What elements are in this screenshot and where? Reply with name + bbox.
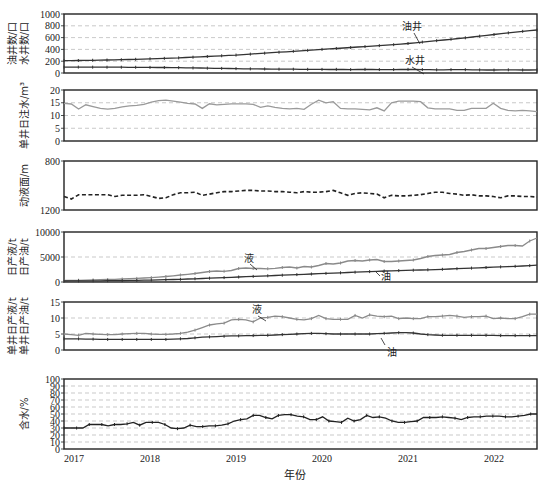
y-axis-label: 动液面/m xyxy=(18,164,30,207)
panel-2: 05101520单井日注水/m³ xyxy=(18,82,537,149)
panel-3: 8001200动液面/m xyxy=(18,156,537,216)
series-annotation: 水井 xyxy=(405,54,425,66)
x-tick-label: 2021 xyxy=(398,453,418,464)
y-tick-label: 400 xyxy=(45,44,60,55)
y-axis-label: 单井日产液/t xyxy=(6,297,18,354)
y-axis-label: 日产油/t xyxy=(18,238,30,275)
series-annotation: 油井 xyxy=(402,20,422,32)
series-annotation: 油 xyxy=(387,346,397,358)
y-tick-label: 0 xyxy=(55,345,60,356)
y-axis-label: 水井数/口 xyxy=(18,22,30,65)
y-tick-label: 10000 xyxy=(35,227,60,238)
y-tick-label: 5 xyxy=(55,329,60,340)
plot-frame xyxy=(64,14,537,73)
y-tick-label: 1000 xyxy=(40,9,60,20)
series-line xyxy=(64,30,537,61)
y-tick-label: 0 xyxy=(55,277,60,288)
series-line xyxy=(64,100,537,112)
x-tick-label: 2022 xyxy=(484,453,504,464)
y-axis-label: 单井日注水/m³ xyxy=(18,82,30,149)
panel-1: 02004006008001000油井数/口水井数/口油井水井 xyxy=(6,9,537,79)
y-tick-label: 20 xyxy=(50,85,60,96)
series-line xyxy=(64,190,537,199)
y-axis-label: 单井日产油/t xyxy=(18,297,30,354)
x-tick-label: 2018 xyxy=(140,453,160,464)
panel-5: 051015单井日产液/t单井日产油/t液油 xyxy=(6,297,537,359)
y-tick-label: 0 xyxy=(55,136,60,147)
x-tick-label: 2019 xyxy=(226,453,246,464)
y-tick-label: 800 xyxy=(45,156,60,167)
series-annotation: 液 xyxy=(252,303,262,315)
y-tick-label: 5000 xyxy=(40,252,60,263)
y-axis-label: 日产液/t xyxy=(6,238,18,275)
y-tick-label: 0 xyxy=(55,68,60,79)
series-annotation: 液 xyxy=(244,252,254,264)
y-tick-label: 15 xyxy=(50,97,60,108)
x-tick-label: 2017 xyxy=(64,453,84,464)
panel-6: 0102030405060708090100含水/% xyxy=(18,374,537,455)
y-tick-label: 800 xyxy=(45,20,60,31)
y-tick-label: 5 xyxy=(55,123,60,134)
series-annotation: 油 xyxy=(381,270,391,282)
plot-frame xyxy=(64,161,537,210)
x-axis-title: 年份 xyxy=(284,468,306,482)
y-tick-label: 200 xyxy=(45,56,60,67)
y-tick-label: 600 xyxy=(45,32,60,43)
y-tick-label: 10 xyxy=(50,110,60,121)
y-axis-label: 含水/% xyxy=(18,398,30,431)
y-tick-label: 15 xyxy=(50,297,60,308)
y-tick-label: 1200 xyxy=(40,205,60,216)
y-tick-label: 100 xyxy=(45,374,60,385)
production-history-figure: 02004006008001000油井数/口水井数/口油井水井05101520单… xyxy=(0,0,547,489)
plot-frame xyxy=(64,302,537,350)
panel-4: 0500010000日产液/t日产油/t液油 xyxy=(6,227,537,288)
y-axis-label: 油井数/口 xyxy=(6,22,18,65)
x-tick-label: 2020 xyxy=(312,453,332,464)
series-line xyxy=(64,314,537,335)
series-line xyxy=(64,67,537,70)
y-tick-label: 10 xyxy=(50,313,60,324)
